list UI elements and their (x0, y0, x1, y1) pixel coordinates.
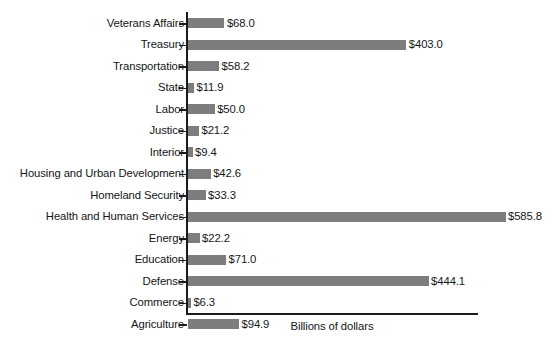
bar-value-label: $6.3 (193, 292, 215, 314)
bar-row: Housing and Urban Development$42.6 (0, 163, 557, 185)
bar[interactable] (188, 233, 200, 243)
bar-value-label: $11.9 (196, 77, 223, 99)
bar-row: Justice$21.2 (0, 120, 557, 142)
bar-value-label: $71.0 (229, 249, 257, 271)
category-label: Defense (143, 271, 184, 293)
bar-row: Energy$22.2 (0, 228, 557, 250)
bar-value-label: $444.1 (431, 271, 465, 293)
bar-row: Labor$50.0 (0, 99, 557, 121)
bar-row: Interior$9.4 (0, 142, 557, 164)
category-label: Homeland Security (90, 185, 184, 207)
bar-row: Transportation$58.2 (0, 56, 557, 78)
bar-row: Treasury$403.0 (0, 34, 557, 56)
bar-value-label: $58.2 (222, 56, 250, 78)
axis-tick (179, 174, 187, 176)
category-label: Housing and Urban Development (20, 163, 184, 185)
category-label: Agriculture (131, 314, 184, 336)
bar-row: Defense$444.1 (0, 271, 557, 293)
bar-value-label: $50.0 (217, 99, 245, 121)
plot-area: Veterans Affairs$68.0Treasury$403.0Trans… (0, 0, 557, 351)
bar[interactable] (188, 298, 191, 308)
axis-tick (179, 238, 187, 240)
x-axis-title: Billions of dollars (186, 320, 478, 332)
axis-tick (179, 195, 187, 197)
axis-tick (179, 260, 187, 262)
bar[interactable] (188, 147, 193, 157)
bar[interactable] (188, 61, 220, 71)
bar-row: Education$71.0 (0, 249, 557, 271)
axis-tick (179, 217, 187, 219)
bar-chart: Veterans Affairs$68.0Treasury$403.0Trans… (0, 0, 557, 351)
axis-tick (179, 88, 187, 90)
axis-tick (179, 152, 187, 154)
bar[interactable] (188, 18, 225, 28)
bar-row: State$11.9 (0, 77, 557, 99)
bar[interactable] (188, 40, 407, 50)
category-label: Commerce (130, 292, 184, 314)
bar[interactable] (188, 83, 194, 93)
axis-tick (179, 131, 187, 133)
bar[interactable] (188, 126, 200, 136)
category-label: Transportation (113, 56, 184, 78)
bar-value-label: $42.6 (213, 163, 241, 185)
bar[interactable] (188, 169, 211, 179)
axis-tick (179, 23, 187, 25)
bar[interactable] (188, 190, 206, 200)
bar[interactable] (188, 255, 227, 265)
category-label: Education (135, 249, 184, 271)
category-label: Health and Human Services (46, 206, 184, 228)
bar[interactable] (188, 104, 215, 114)
bar-row: Veterans Affairs$68.0 (0, 13, 557, 35)
bar-value-label: $21.2 (202, 120, 230, 142)
axis-tick (179, 109, 187, 111)
bar-row: Commerce$6.3 (0, 292, 557, 314)
category-label: Veterans Affairs (107, 13, 184, 35)
bar-row: Homeland Security$33.3 (0, 185, 557, 207)
bar-value-label: $403.0 (409, 34, 443, 56)
bar-value-label: $585.8 (508, 206, 542, 228)
bar-value-label: $22.2 (202, 228, 230, 250)
bar[interactable] (188, 212, 506, 222)
bar[interactable] (188, 276, 429, 286)
bar-value-label: $9.4 (195, 142, 217, 164)
axis-tick (179, 45, 187, 47)
axis-tick (179, 66, 187, 68)
axis-tick (179, 303, 187, 305)
category-label: Treasury (141, 34, 184, 56)
bar-row: Health and Human Services$585.8 (0, 206, 557, 228)
bar-value-label: $68.0 (227, 13, 255, 35)
axis-tick (179, 281, 187, 283)
bar-value-label: $33.3 (208, 185, 236, 207)
